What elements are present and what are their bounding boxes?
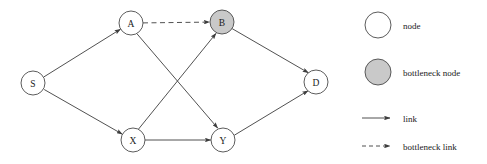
diagram-canvas: S A B X Y D (0, 0, 487, 164)
legend-item-link: link (362, 114, 418, 124)
legend-bottleneck-node-label: bottleneck node (403, 68, 460, 78)
node-y[interactable]: Y (211, 128, 235, 152)
node-x[interactable]: X (121, 128, 145, 152)
edge-layer (44, 22, 309, 140)
node-y-circle[interactable] (211, 128, 235, 152)
node-b[interactable]: B (210, 10, 234, 34)
graph-figure: S A B X Y D (0, 0, 487, 164)
node-a[interactable]: A (119, 11, 143, 35)
legend-bottleneck-link-label: bottleneck link (403, 142, 457, 152)
legend-node-swatch-icon (365, 12, 391, 38)
node-layer: S A B X Y D (21, 10, 328, 152)
legend-link-label: link (403, 114, 418, 124)
node-d[interactable]: D (304, 70, 328, 94)
node-s-circle[interactable] (21, 71, 45, 95)
edge-y-d (234, 91, 308, 136)
node-d-circle[interactable] (304, 70, 328, 94)
legend-item-node: node (365, 12, 421, 38)
edge-b-d (232, 29, 308, 73)
edge-s-a (44, 29, 121, 77)
legend-node-label: node (403, 21, 421, 31)
edge-s-x (44, 90, 122, 135)
node-s[interactable]: S (21, 71, 45, 95)
node-x-circle[interactable] (121, 128, 145, 152)
edge-x-b (139, 33, 217, 129)
legend-item-bottleneck-link: bottleneck link (362, 142, 457, 152)
legend-item-bottleneck-node: bottleneck node (365, 59, 460, 85)
legend-bottleneck-node-swatch-icon (365, 59, 391, 85)
edge-a-b (143, 22, 210, 23)
node-a-circle[interactable] (119, 11, 143, 35)
node-b-circle[interactable] (210, 10, 234, 34)
legend: node bottleneck node link bottleneck lin… (362, 12, 460, 152)
